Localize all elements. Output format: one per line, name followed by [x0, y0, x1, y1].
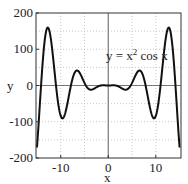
chart: 2001000-100-200 -10010 y x y = x2 cos x [0, 0, 188, 184]
x-tick-label: 10 [149, 160, 162, 175]
y-axis-label: y [7, 78, 14, 93]
curve-annotation: y = x2 cos x [106, 47, 168, 63]
y-axis-ticks: 2001000-100-200 [9, 5, 39, 165]
y-tick-label: 100 [14, 41, 34, 56]
y-tick-label: -200 [9, 150, 33, 165]
x-axis-label: x [104, 170, 111, 184]
y-tick-label: 0 [27, 78, 34, 93]
y-tick-label: 200 [14, 5, 34, 20]
x-tick-label: -10 [52, 160, 69, 175]
y-tick-label: -100 [9, 114, 33, 129]
